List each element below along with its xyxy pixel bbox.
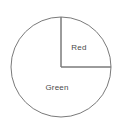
pie-slice-label-green: Green: [45, 84, 68, 92]
pie-slice-label-red: Red: [71, 44, 86, 52]
pie-chart-svg: [0, 0, 119, 127]
pie-slice-green: [11, 17, 111, 117]
pie-slice-red: [61, 17, 111, 67]
pie-chart-figure: Red Green: [0, 0, 119, 127]
